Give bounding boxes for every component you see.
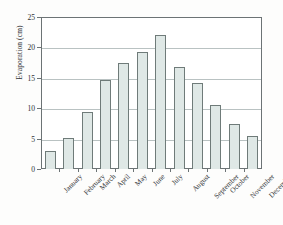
y-tick-label: 20 xyxy=(27,43,35,52)
y-tick-label: 0 xyxy=(31,165,35,174)
bar xyxy=(45,151,56,169)
bar xyxy=(82,112,93,169)
x-tick-label: July xyxy=(169,172,184,187)
bar xyxy=(174,67,185,169)
bar xyxy=(229,124,240,169)
y-tick-label: 10 xyxy=(27,104,35,113)
bar xyxy=(192,83,203,169)
bars-layer xyxy=(41,17,262,169)
x-tick-label: June xyxy=(151,172,167,188)
bar xyxy=(247,136,258,169)
bar xyxy=(100,80,111,169)
bar xyxy=(210,105,221,169)
bar xyxy=(63,138,74,169)
y-axis: 0510152025 xyxy=(0,17,41,169)
bar xyxy=(155,35,166,169)
x-tick-label: April xyxy=(115,172,132,189)
evaporation-bar-chart: Evaporation (cm) 0510152025 JanuaryFebru… xyxy=(0,0,283,225)
x-tick-label: January xyxy=(62,172,84,194)
y-tick-label: 5 xyxy=(31,134,35,143)
y-tick-label: 25 xyxy=(27,13,35,22)
bar xyxy=(137,52,148,169)
x-tick-label: May xyxy=(133,172,149,188)
bar xyxy=(118,63,129,169)
x-tick-label: August xyxy=(190,172,211,193)
x-axis-labels: JanuaryFebruaryMarchAprilMayJuneJulyAugu… xyxy=(41,172,262,225)
y-tick-label: 15 xyxy=(27,73,35,82)
